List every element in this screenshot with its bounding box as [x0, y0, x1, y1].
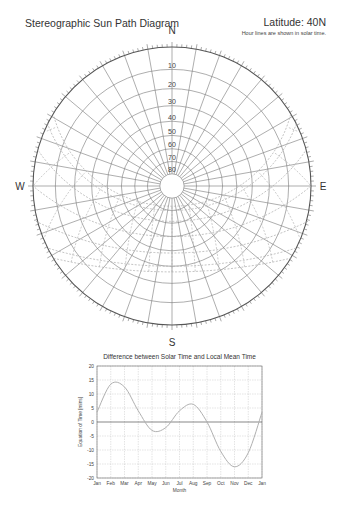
y-tick-label: 10: [89, 392, 95, 397]
x-tick-label: Sep: [203, 481, 212, 486]
equation-of-time-chart: Difference between Solar Time and Local …: [0, 0, 342, 509]
y-tick-label: 15: [89, 378, 95, 383]
x-tick-label: Mar: [120, 481, 129, 486]
x-tick-label: Aug: [189, 481, 198, 486]
y-axis-label: Equation of Time [mins]: [78, 397, 83, 447]
x-tick-label: Nov: [230, 481, 239, 486]
y-tick-label: -5: [90, 434, 95, 439]
eot-chart-title: Difference between Solar Time and Local …: [103, 353, 256, 360]
x-tick-label: Jan: [93, 481, 101, 486]
x-tick-label: Oct: [217, 481, 225, 486]
x-tick-label: Jun: [162, 481, 170, 486]
x-tick-label: Feb: [107, 481, 116, 486]
x-tick-label: Apr: [135, 481, 143, 486]
y-tick-label: 5: [91, 406, 94, 411]
y-tick-label: 20: [89, 364, 95, 369]
x-tick-label: Dec: [244, 481, 253, 486]
y-tick-label: -15: [87, 462, 94, 467]
x-tick-label: May: [147, 481, 157, 486]
x-tick-label: Jul: [176, 481, 182, 486]
y-tick-label: 0: [91, 420, 94, 425]
x-axis-label: Month: [173, 488, 187, 493]
x-tick-label: Jan: [258, 481, 266, 486]
y-tick-label: -10: [87, 448, 94, 453]
